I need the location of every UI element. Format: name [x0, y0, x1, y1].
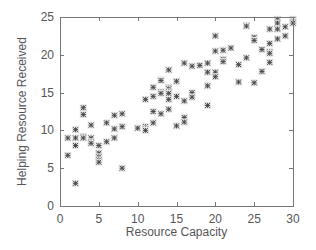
data-point-asterisk-icon: [220, 47, 227, 54]
data-point-asterisk-icon: [150, 108, 157, 115]
data-point-asterisk-icon: [111, 112, 118, 119]
data-point-asterisk-icon: [204, 60, 211, 67]
y-axis-title: Helping Resource Received: [15, 37, 29, 186]
data-point-asterisk-icon: [181, 97, 188, 104]
x-tick-label: 10: [131, 212, 145, 226]
data-point-asterisk-icon: [72, 134, 79, 141]
data-point-asterisk-icon: [157, 110, 164, 117]
data-point-asterisk-icon: [150, 84, 157, 91]
data-point-asterisk-icon: [266, 50, 273, 57]
data-point-asterisk-icon: [274, 26, 281, 33]
data-point-asterisk-icon: [251, 79, 258, 86]
data-point-asterisk-icon: [235, 61, 242, 68]
tick-labels: 0510152025300510152025: [41, 10, 300, 226]
data-point-asterisk-icon: [119, 123, 126, 130]
data-point-asterisk-icon: [150, 119, 157, 126]
data-point-asterisk-icon: [227, 44, 234, 51]
data-point-asterisk-icon: [72, 126, 79, 133]
data-point-asterisk-icon: [266, 59, 273, 66]
data-point-asterisk-icon: [173, 93, 180, 100]
data-point-asterisk-icon: [274, 20, 281, 27]
data-point-asterisk-icon: [165, 66, 172, 73]
data-point-asterisk-icon: [142, 127, 149, 134]
data-point-asterisk-icon: [64, 134, 71, 141]
data-point-asterisk-icon: [165, 90, 172, 97]
plot-frame: [61, 18, 294, 207]
data-point-asterisk-icon: [80, 111, 87, 118]
data-point-asterisk-icon: [204, 102, 211, 109]
data-point-asterisk-icon: [243, 54, 250, 61]
x-tick-label: 30: [286, 212, 300, 226]
y-tick-label: 10: [41, 123, 55, 137]
data-point-asterisk-icon: [72, 142, 79, 149]
data-point-asterisk-icon: [88, 122, 95, 129]
data-point-asterisk-icon: [189, 94, 196, 101]
data-point-asterisk-icon: [220, 58, 227, 65]
data-point-asterisk-icon: [64, 152, 71, 159]
data-point-asterisk-icon: [142, 96, 149, 103]
data-point-asterisk-icon: [258, 46, 265, 53]
data-point-asterisk-icon: [165, 96, 172, 103]
x-axis-title: Resource Capacity: [126, 225, 227, 239]
data-point-asterisk-icon: [157, 77, 164, 84]
data-point-asterisk-icon: [111, 134, 118, 141]
y-tick-label: 0: [47, 199, 54, 213]
data-point-asterisk-icon: [103, 138, 110, 145]
data-point-asterisk-icon: [95, 159, 102, 166]
data-point-asterisk-icon: [173, 122, 180, 129]
data-point-asterisk-icon: [80, 104, 87, 111]
data-point-asterisk-icon: [111, 125, 118, 132]
data-point-asterisk-icon: [258, 68, 265, 75]
data-point-asterisk-icon: [251, 37, 258, 44]
scatter-chart: 0510152025300510152025 Resource Capacity…: [0, 0, 316, 250]
x-tick-label: 15: [170, 212, 184, 226]
data-point-asterisk-icon: [204, 69, 211, 76]
data-point-asterisk-icon: [181, 60, 188, 67]
data-point-asterisk-icon: [80, 134, 87, 141]
data-point-asterisk-icon: [282, 32, 289, 39]
data-point-asterisk-icon: [212, 48, 219, 55]
data-point-asterisk-icon: [181, 119, 188, 126]
data-point-asterisk-icon: [88, 140, 95, 147]
data-point-asterisk-icon: [173, 78, 180, 85]
y-tick-label: 15: [41, 86, 55, 100]
data-point-asterisk-icon: [243, 23, 250, 30]
data-point-asterisk-icon: [165, 106, 172, 113]
axis-ticks: [60, 17, 294, 207]
x-tick-label: 20: [209, 212, 223, 226]
data-point-asterisk-icon: [212, 32, 219, 39]
data-point-asterisk-icon: [196, 62, 203, 69]
data-points: [64, 16, 296, 187]
data-point-asterisk-icon: [282, 23, 289, 30]
y-tick-label: 25: [41, 10, 55, 24]
data-point-asterisk-icon: [134, 125, 141, 132]
data-point-asterisk-icon: [119, 110, 126, 117]
data-point-asterisk-icon: [212, 73, 219, 80]
x-tick-label: 0: [57, 212, 64, 226]
data-point-asterisk-icon: [72, 180, 79, 187]
data-point-asterisk-icon: [266, 40, 273, 47]
data-point-asterisk-icon: [103, 119, 110, 126]
data-point-asterisk-icon: [119, 165, 126, 172]
data-point-asterisk-icon: [274, 35, 281, 42]
data-point-asterisk-icon: [150, 93, 157, 100]
data-point-asterisk-icon: [266, 26, 273, 33]
data-point-asterisk-icon: [235, 79, 242, 86]
data-point-asterisk-icon: [189, 63, 196, 70]
x-tick-label: 5: [95, 212, 102, 226]
y-tick-label: 5: [47, 161, 54, 175]
x-tick-label: 25: [247, 212, 261, 226]
data-point-asterisk-icon: [157, 90, 164, 97]
data-point-asterisk-icon: [204, 82, 211, 89]
data-point-asterisk-icon: [95, 142, 102, 149]
y-tick-label: 20: [41, 48, 55, 62]
